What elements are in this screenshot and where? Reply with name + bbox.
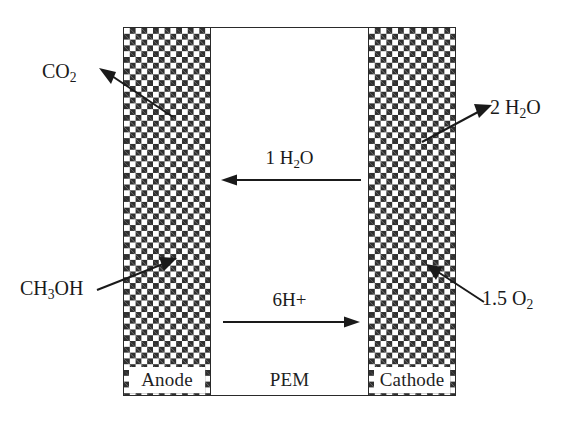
- species-water-tail: O: [526, 96, 540, 118]
- species-oxygen-sub: 2: [526, 297, 533, 312]
- leader-line-oxygen: [424, 262, 490, 308]
- pem-region-label: PEM: [211, 367, 368, 393]
- species-methanol-sub: 3: [48, 287, 55, 302]
- leader-line-water-out: [418, 98, 496, 146]
- anode-label-text: Anode: [141, 369, 193, 391]
- flow-water-label-main: 1 H: [265, 147, 293, 168]
- species-methanol-tail: OH: [55, 277, 84, 299]
- anode-region-label: Anode: [129, 367, 205, 393]
- flow-proton-transport: 6H+: [213, 289, 366, 339]
- diagram-canvas: Anode PEM Cathode 1 H2O 6H+: [0, 0, 570, 429]
- pem-label-text: PEM: [270, 369, 310, 391]
- pem-membrane-region: [211, 27, 368, 396]
- flow-water-label: 1 H2O: [213, 147, 366, 172]
- species-label-water-out: 2 H2O: [490, 96, 541, 122]
- flow-water-back-diffusion: 1 H2O: [213, 147, 366, 197]
- flow-water-label-tail: O: [300, 147, 314, 168]
- leader-line-co2: [90, 62, 180, 122]
- species-co2-main: CO: [42, 60, 70, 82]
- species-label-methanol: CH3OH: [20, 277, 83, 303]
- cathode-label-text: Cathode: [380, 369, 445, 391]
- species-methanol-main: CH: [20, 277, 48, 299]
- arrow-left-icon: [213, 173, 366, 187]
- cathode-region-label: Cathode: [374, 367, 450, 393]
- arrow-right-icon: [213, 315, 366, 329]
- species-co2-sub: 2: [70, 70, 77, 85]
- leader-line-methanol: [95, 255, 185, 295]
- cathode-electrode-block: [368, 27, 456, 396]
- species-label-co2: CO2: [42, 60, 77, 86]
- flow-proton-label: 6H+: [213, 289, 366, 311]
